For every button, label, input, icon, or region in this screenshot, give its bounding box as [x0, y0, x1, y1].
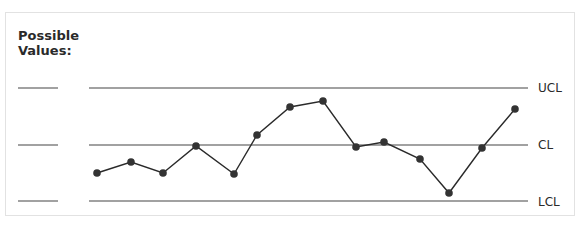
data-point: [352, 143, 360, 151]
data-series-line: [97, 101, 515, 193]
data-point: [230, 170, 238, 178]
ucl-label: UCL: [538, 81, 562, 95]
data-point: [511, 105, 519, 113]
data-point: [380, 138, 388, 146]
cl-label: CL: [538, 138, 553, 152]
data-point: [127, 158, 135, 166]
control-chart: UCL CL LCL: [0, 0, 582, 229]
data-point: [445, 189, 453, 197]
data-point: [93, 169, 101, 177]
control-lines: [18, 88, 528, 201]
data-point: [319, 97, 327, 105]
data-point: [478, 144, 486, 152]
data-point: [416, 155, 424, 163]
data-point: [159, 169, 167, 177]
data-point: [253, 131, 261, 139]
data-points: [93, 97, 519, 197]
lcl-label: LCL: [538, 195, 560, 209]
data-point: [192, 142, 200, 150]
data-point: [286, 103, 294, 111]
